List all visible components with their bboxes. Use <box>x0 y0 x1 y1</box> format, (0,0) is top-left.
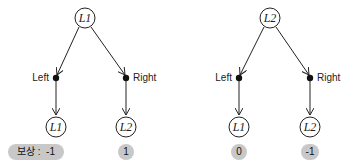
edge-root-to-left <box>240 27 264 75</box>
reward-value: 1 <box>123 146 129 157</box>
reward-badge: 보상 : -1 <box>8 144 64 160</box>
tree-l2: L2 Left Right L1 L2 <box>215 8 340 137</box>
reward-value: 0 <box>236 146 242 157</box>
action-dot-left <box>236 75 242 81</box>
tree-l1: L1 Left Right L1 L2 <box>32 8 156 137</box>
reward-value: -1 <box>46 146 55 157</box>
action-label-left: Left <box>32 72 49 83</box>
edge-root-to-right <box>91 27 125 75</box>
reward-prefix: 보상 : <box>17 146 41 157</box>
root-state-label: L2 <box>263 11 277 25</box>
reward-value: -1 <box>306 146 315 157</box>
edge-root-to-right <box>276 27 309 75</box>
next-state-label: L2 <box>119 120 133 134</box>
action-label-right: Right <box>317 72 341 83</box>
reward-badge: 1 <box>118 144 134 160</box>
action-dot-right <box>307 75 313 81</box>
reward-badge: 0 <box>231 144 247 160</box>
next-state-label: L1 <box>232 120 246 134</box>
action-dot-right <box>123 75 129 81</box>
reward-badge: -1 <box>301 144 319 160</box>
next-state-label: L2 <box>303 120 317 134</box>
root-state-label: L1 <box>78 11 92 25</box>
edge-root-to-left <box>57 27 79 75</box>
action-dot-left <box>53 75 59 81</box>
next-state-label: L1 <box>49 120 63 134</box>
action-label-right: Right <box>133 72 157 83</box>
state-transition-diagram: L1 Left Right L1 L2 L2 Left Right L1 L2 <box>0 0 356 166</box>
action-label-left: Left <box>215 72 232 83</box>
